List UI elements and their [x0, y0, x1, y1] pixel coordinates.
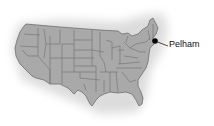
us-map: Pelham — [0, 0, 214, 126]
marker-layer — [0, 0, 214, 126]
marker-label-pelham: Pelham — [169, 40, 200, 49]
location-marker-icon[interactable] — [152, 38, 158, 44]
